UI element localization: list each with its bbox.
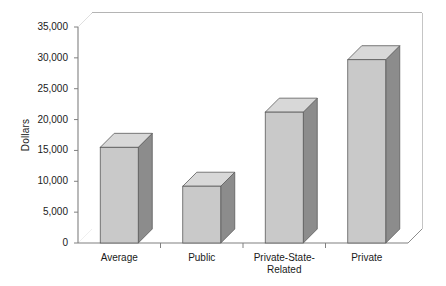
- bar: [183, 172, 235, 243]
- bar: [348, 46, 400, 243]
- bar-chart: Dollars 05,00010,00015,00020,00025,00030…: [0, 0, 446, 286]
- x-axis-tick-label: Private: [323, 252, 411, 264]
- bar: [100, 133, 152, 243]
- bar: [265, 98, 317, 243]
- x-axis-tick-label: Average: [75, 252, 163, 264]
- plot-area: [0, 0, 446, 286]
- x-axis-tick-label: Public: [158, 252, 246, 264]
- x-axis-tick-label: Private-State- Related: [240, 252, 328, 275]
